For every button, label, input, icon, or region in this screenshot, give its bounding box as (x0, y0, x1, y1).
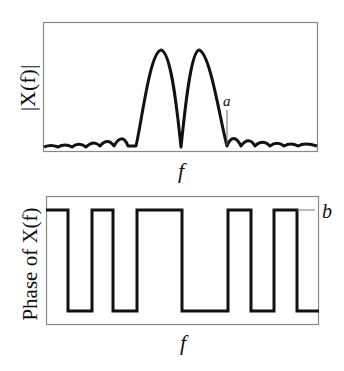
phase-curve (46, 210, 319, 311)
phase-xlabel: f (180, 330, 189, 355)
phase-ylabel: Phase of X(f) (18, 207, 42, 320)
annotation-a-label: a (223, 93, 231, 109)
figure: a |X(f)| f b Phase of X(f) f (0, 0, 344, 371)
magnitude-curve (44, 50, 317, 147)
magnitude-ylabel: |X(f)| (15, 65, 40, 112)
annotation-b-label: b (322, 200, 332, 222)
magnitude-xlabel: f (178, 158, 187, 183)
